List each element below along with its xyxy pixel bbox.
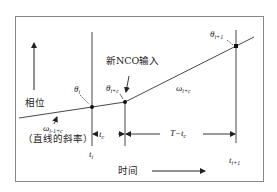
theta-i-leader [80, 95, 89, 104]
omega-prev-label: ωi-1+c [43, 124, 63, 134]
t-i-label: ti [89, 150, 93, 160]
time-axis-label: 时间 [118, 166, 138, 176]
theta-i1-leader [227, 40, 233, 45]
slope-note-label: （直线的斜率） [23, 134, 93, 144]
omega-next-label: ωi+c [176, 84, 191, 94]
diagram-frame [16, 17, 264, 182]
point-theta-ic [123, 100, 127, 104]
theta-i1-label: θi+1 [210, 30, 223, 40]
phase-line [19, 37, 254, 118]
nco-input-arrow [126, 76, 129, 92]
theta-ic-leader [120, 94, 123, 99]
point-theta-i [90, 105, 94, 109]
theta-i-label: θi [74, 85, 80, 95]
new-nco-input-label: 新NCO输入 [106, 56, 159, 66]
tc-label: tc [99, 130, 104, 140]
phase-axis-label: 相位 [25, 98, 45, 108]
t-i1-label: ti+1 [229, 156, 240, 166]
T-minus-tc-label: T−tc [170, 129, 186, 139]
theta-ic-label: θi+c [106, 84, 119, 94]
slope-arrow [54, 117, 57, 124]
point-theta-i1 [234, 44, 238, 48]
